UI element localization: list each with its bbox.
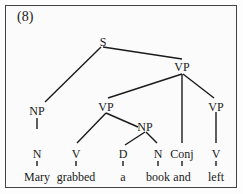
word-left: left [208, 171, 224, 183]
node-np-object: NP [137, 121, 152, 133]
node-vp-top: VP [174, 61, 189, 73]
node-n-object: N [154, 148, 163, 160]
node-n-subject: N [33, 148, 42, 160]
node-vp-right: VP [208, 101, 223, 113]
node-vp-left: VP [98, 101, 113, 113]
word-book: book [146, 171, 170, 183]
node-np-subject: NP [29, 105, 44, 117]
tree-edges [0, 0, 243, 194]
word-and: and [173, 171, 190, 183]
node-d: D [119, 148, 128, 160]
node-v-left: V [72, 148, 81, 160]
node-conj: Conj [170, 148, 193, 160]
word-mary: Mary [24, 171, 50, 183]
word-grabbed: grabbed [57, 171, 96, 183]
node-v-right: V [212, 148, 221, 160]
node-s: S [100, 36, 107, 48]
word-a: a [120, 171, 125, 183]
